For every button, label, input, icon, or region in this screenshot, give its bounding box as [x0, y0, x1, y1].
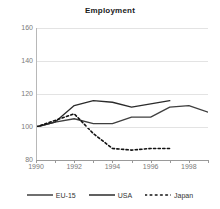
y-tick-label: 120 [3, 90, 33, 97]
x-tick-mark [36, 160, 37, 163]
x-tick-mark [132, 160, 133, 163]
series-line-usa [36, 101, 170, 127]
y-tick-label: 80 [3, 156, 33, 163]
legend-swatch-dotted [145, 191, 171, 199]
x-tick-mark [74, 160, 75, 163]
series-line-japan [36, 114, 170, 150]
y-axis-tick-labels: 80100120140160 [0, 28, 33, 160]
chart-legend: EU-15USAJapan [0, 186, 220, 204]
plot-area [36, 28, 208, 160]
x-tick-mark [112, 160, 113, 163]
x-axis-tick-labels: 19901992199419961998 [36, 163, 208, 175]
x-tick-label: 1996 [143, 163, 159, 170]
y-axis-line [36, 28, 37, 160]
x-tick-mark [170, 160, 171, 163]
chart-title: Employment [0, 6, 220, 15]
legend-label: Japan [174, 192, 193, 199]
x-tick-label: 1992 [66, 163, 82, 170]
x-axis-line [36, 160, 208, 161]
legend-item-eu-15[interactable]: EU-15 [27, 191, 76, 199]
legend-label: USA [118, 192, 132, 199]
gridline [36, 94, 208, 95]
employment-chart: Employment 80100120140160 19901992199419… [0, 0, 220, 209]
x-tick-label: 1998 [181, 163, 197, 170]
gridline [36, 28, 208, 29]
x-tick-mark [151, 160, 152, 163]
legend-swatch-solid [89, 191, 115, 199]
y-tick-label: 160 [3, 24, 33, 31]
y-tick-label: 140 [3, 57, 33, 64]
x-tick-mark [189, 160, 190, 163]
legend-label: EU-15 [56, 192, 76, 199]
legend-swatch-solid [27, 191, 53, 199]
gridline [36, 127, 208, 128]
x-tick-mark [55, 160, 56, 163]
gridline [36, 61, 208, 62]
x-tick-mark [208, 160, 209, 163]
x-tick-label: 1990 [28, 163, 44, 170]
legend-item-usa[interactable]: USA [89, 191, 132, 199]
legend-item-japan[interactable]: Japan [145, 191, 193, 199]
y-tick-label: 100 [3, 123, 33, 130]
x-tick-label: 1994 [105, 163, 121, 170]
x-tick-mark [93, 160, 94, 163]
